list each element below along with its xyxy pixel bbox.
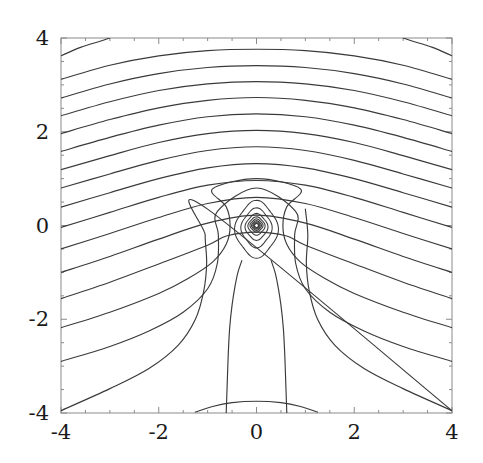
y-tick-label: 2 [36, 120, 49, 144]
x-tick-label: 4 [445, 420, 458, 444]
y-tick-label: -2 [29, 307, 49, 331]
y-tick-label: 0 [36, 214, 49, 238]
y-tick-label: -4 [29, 401, 49, 425]
x-tick-label: -2 [149, 420, 169, 444]
y-tick-label: 4 [36, 26, 49, 50]
x-tick-label: -4 [51, 420, 71, 444]
contour-plot-figure: -4-2024 420-2-4 [0, 0, 483, 463]
x-tick-label: 2 [348, 420, 361, 444]
x-tick-label: 0 [250, 420, 263, 444]
contour-plot-canvas: -4-2024 420-2-4 [0, 0, 483, 463]
